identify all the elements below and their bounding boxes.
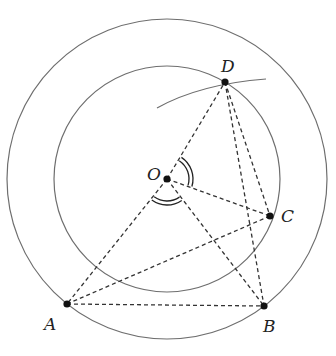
segment-ob [167,179,264,306]
angle-aob-arc-inner [154,197,179,201]
point-b [260,302,267,309]
segment-dc [225,82,270,216]
label-a: A [42,314,56,334]
segment-ac [67,216,270,304]
point-d [221,78,228,85]
label-d: D [220,56,235,76]
point-o [163,175,170,182]
point-labels: ODCAB [42,56,294,336]
segment-od [167,82,225,179]
points [63,78,273,309]
angle-doc-arc-inner [179,161,189,186]
segment-ab [67,304,264,306]
label-b: B [262,316,276,336]
point-c [266,212,273,219]
segment-oc [167,179,270,216]
segment-oa [67,179,167,304]
point-a [63,300,70,307]
geometry-diagram: ODCAB [0,0,336,356]
label-c: C [281,206,294,226]
label-o: O [147,164,161,184]
dashed-segments [67,82,270,306]
diagram-svg: ODCAB [0,0,336,356]
